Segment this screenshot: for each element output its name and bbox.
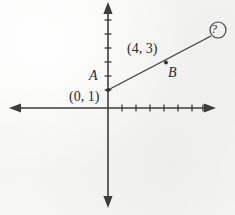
point-A-marker xyxy=(106,88,110,92)
point-label-a: A xyxy=(89,69,98,83)
point-coordinate-label-b: (4, 3) xyxy=(127,42,157,56)
point-coordinate-label-a: (0, 1) xyxy=(69,90,99,104)
y-axis-arrow-down xyxy=(103,196,112,208)
y-axis-group xyxy=(103,2,112,208)
unknown-endpoint-question-mark: ? xyxy=(211,23,217,35)
point-label-b: B xyxy=(168,66,177,80)
y-axis-arrow-up xyxy=(103,2,112,14)
point-B-marker xyxy=(164,61,168,65)
x-axis-group xyxy=(9,103,216,112)
coordinate-plane-svg xyxy=(0,0,235,215)
x-axis-arrow-right xyxy=(204,103,216,112)
ray-through-A-and-B xyxy=(108,36,211,90)
x-axis-arrow-left xyxy=(9,103,21,112)
coordinate-plane-figure: A (0, 1) B (4, 3) ? xyxy=(0,0,235,215)
